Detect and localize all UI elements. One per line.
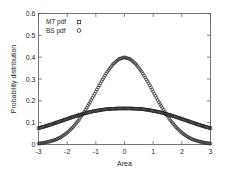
y-tick-label: 0.2	[26, 97, 36, 104]
y-tick-label: 0	[32, 141, 36, 148]
y-tick-label: 0.5	[26, 32, 36, 39]
y-tick-label: 0.6	[26, 10, 36, 17]
y-tick-label: 0.3	[26, 76, 36, 83]
chart-figure: -3-2-10123 00.10.20.30.40.50.6 MT pdfBS …	[0, 0, 236, 172]
plot-canvas: -3-2-10123 00.10.20.30.40.50.6 MT pdfBS …	[0, 0, 236, 172]
x-tick-label: 1	[151, 148, 155, 155]
x-tick-label: 2	[180, 148, 184, 155]
x-tick-label: -2	[64, 148, 70, 155]
y-tick-label: 0.1	[26, 119, 36, 126]
x-axis-title: Area	[117, 160, 132, 167]
legend-label-1: BS pdf	[46, 27, 66, 35]
legend-label-0: MT pdf	[46, 18, 66, 26]
y-tick-label: 0.4	[26, 54, 36, 61]
y-axis-title: Probability distribution	[10, 45, 18, 114]
x-tick-label: -3	[35, 148, 41, 155]
x-tick-label: 3	[209, 148, 213, 155]
x-tick-label: 0	[123, 148, 127, 155]
x-tick-label: -1	[93, 148, 99, 155]
